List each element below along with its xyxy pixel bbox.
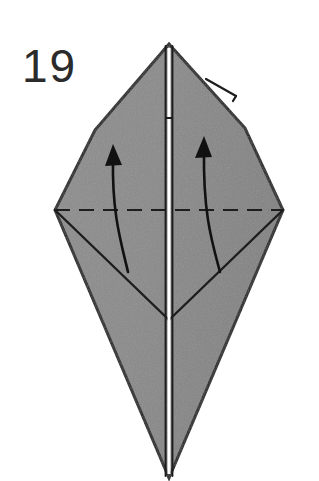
- origami-diagram-canvas: 19: [0, 0, 319, 481]
- step-number-label: 19: [22, 40, 77, 92]
- origami-step-figure: 19: [0, 0, 319, 481]
